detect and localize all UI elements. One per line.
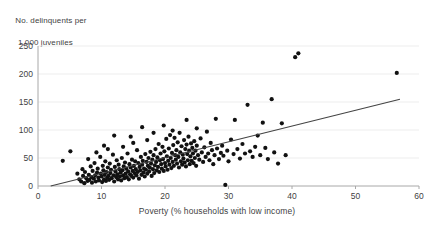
data-point: [113, 165, 117, 169]
data-point: [83, 170, 87, 174]
data-point: [86, 157, 90, 161]
data-point: [212, 153, 216, 157]
data-point: [395, 71, 399, 75]
x-tick-label: 30: [224, 191, 234, 201]
data-point: [201, 160, 205, 164]
data-point: [195, 126, 199, 130]
data-point: [182, 138, 186, 142]
x-tick-label: 20: [160, 191, 170, 201]
data-point: [158, 151, 162, 155]
data-point: [162, 123, 166, 127]
data-point: [253, 145, 257, 149]
data-point: [231, 152, 235, 156]
data-point: [168, 133, 172, 137]
trend-line: [51, 99, 400, 186]
data-point: [243, 151, 247, 155]
data-point: [276, 162, 280, 166]
data-point: [137, 177, 141, 181]
data-point: [61, 159, 65, 163]
data-point: [156, 165, 160, 169]
y-tick-label: 250: [19, 41, 33, 51]
data-point: [162, 149, 166, 153]
data-point: [293, 55, 297, 59]
data-point: [238, 156, 242, 160]
data-point: [121, 145, 125, 149]
data-point: [127, 177, 131, 181]
y-tick-label: 200: [19, 69, 33, 79]
data-point: [263, 146, 267, 150]
data-point: [217, 157, 221, 161]
data-point: [205, 130, 209, 134]
data-point: [90, 181, 94, 185]
x-tick-label: 60: [414, 191, 424, 201]
data-point: [207, 158, 211, 162]
data-point: [98, 155, 102, 159]
data-point: [129, 135, 133, 139]
y-tick-label: 50: [24, 153, 34, 163]
data-point: [266, 157, 270, 161]
data-point: [172, 136, 176, 140]
data-point: [176, 140, 180, 144]
data-point: [146, 156, 150, 160]
data-point: [176, 155, 180, 159]
data-point: [211, 162, 215, 166]
data-point: [157, 142, 161, 146]
x-tick-label: 40: [287, 191, 297, 201]
data-point: [248, 149, 252, 153]
data-point: [296, 51, 300, 55]
data-point: [221, 154, 225, 158]
data-point: [198, 136, 202, 140]
data-point: [165, 168, 169, 172]
data-point: [177, 165, 181, 169]
data-point: [140, 125, 144, 129]
data-point: [194, 164, 198, 168]
data-point: [151, 167, 155, 171]
data-point: [112, 134, 116, 138]
data-point: [251, 155, 255, 159]
data-point: [160, 145, 164, 149]
data-point: [91, 169, 95, 173]
data-point: [245, 103, 249, 107]
data-point: [225, 149, 229, 153]
data-point: [151, 131, 155, 135]
plot-area: 050100150200250 0102030405060: [0, 0, 434, 231]
data-point: [171, 128, 175, 132]
x-tick-label: 0: [36, 191, 41, 201]
x-tick-label: 10: [97, 191, 107, 201]
data-point: [197, 158, 201, 162]
data-point: [108, 162, 112, 166]
data-point: [226, 159, 230, 163]
data-point: [174, 148, 178, 152]
data-point: [123, 160, 127, 164]
data-point: [68, 149, 72, 153]
data-point: [223, 183, 227, 187]
data-point: [102, 144, 106, 148]
data-point: [96, 167, 100, 171]
data-point: [235, 147, 239, 151]
data-point: [159, 162, 163, 166]
scatter-chart: No. delinquents per 1,000 juveniles 0501…: [0, 0, 434, 231]
y-tick-label: 0: [28, 181, 33, 191]
data-point: [204, 155, 208, 159]
data-point: [139, 155, 143, 159]
data-point: [167, 146, 171, 150]
data-point: [184, 164, 188, 168]
data-point: [240, 142, 244, 146]
data-point: [143, 152, 147, 156]
data-point: [149, 162, 153, 166]
data-point: [147, 169, 151, 173]
data-point: [261, 121, 265, 125]
y-tick-labels: 050100150200250: [19, 41, 33, 191]
y-tick-label: 150: [19, 97, 33, 107]
data-point: [148, 150, 152, 154]
data-point: [89, 164, 93, 168]
data-point: [210, 148, 214, 152]
data-point: [153, 147, 157, 151]
data-point: [106, 147, 110, 151]
data-point: [157, 170, 161, 174]
data-point: [75, 172, 79, 176]
data-point: [200, 150, 204, 154]
data-point: [184, 142, 188, 146]
x-axis-title: Poverty (% households with low income): [0, 206, 434, 216]
data-point: [206, 151, 210, 155]
